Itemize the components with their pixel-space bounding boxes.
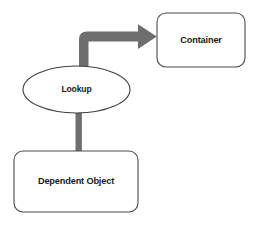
connector-lookup-to-dependent-object (76, 108, 82, 154)
lookup-label: Lookup (61, 84, 91, 94)
diagram-canvas: Container Lookup Dependent Object (0, 0, 255, 233)
node-lookup[interactable]: Lookup (23, 66, 130, 113)
dependent-object-label: Dependent Object (38, 176, 114, 186)
connector-lookup-to-container (79, 24, 157, 72)
diagram-svg: Container Lookup Dependent Object (0, 0, 255, 233)
connector-vertical-stem (76, 108, 82, 154)
connector-arrowhead-icon (138, 24, 157, 49)
connector-elbow-body (79, 32, 139, 73)
container-label: Container (180, 35, 222, 45)
node-container[interactable]: Container (157, 13, 245, 67)
node-dependent-object[interactable]: Dependent Object (14, 151, 138, 212)
